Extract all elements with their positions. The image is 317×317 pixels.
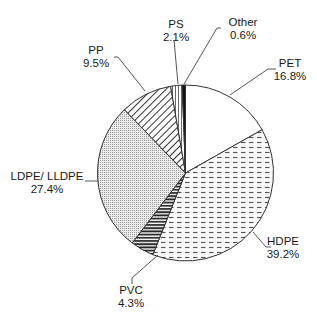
leader-line-other [184,28,221,84]
label-ldpe-pct: 27.4% [31,183,64,195]
label-pet-name: PET [279,57,301,69]
label-pet-pct: 16.8% [274,70,307,82]
label-other-name: Other [229,16,258,28]
label-hdpe-pct: 39.2% [267,248,300,260]
label-other: Other 0.6% [229,16,258,41]
leader-line-ps [174,40,178,84]
label-ldpe-name: LDPE/ LLDPE [11,170,84,182]
pie-slices [98,85,274,261]
label-ps-pct: 2.1% [163,31,189,43]
leader-line-pvc [132,255,158,284]
leader-line-pet [230,69,276,95]
pie-chart: PS 2.1% Other 0.6% PP 9.5% PET 16.8% LDP… [0,0,317,317]
label-pp: PP 9.5% [83,44,109,69]
label-pvc-name: PVC [119,284,143,296]
label-pp-pct: 9.5% [83,57,109,69]
label-hdpe: HDPE 39.2% [267,235,300,260]
label-ps-name: PS [168,18,184,30]
label-pvc: PVC 4.3% [118,284,144,309]
label-pvc-pct: 4.3% [118,297,144,309]
label-pet: PET 16.8% [274,57,307,82]
label-hdpe-name: HDPE [267,235,299,247]
label-pp-name: PP [88,44,104,56]
label-other-pct: 0.6% [230,29,256,41]
leader-line-pp [114,57,145,91]
label-ps: PS 2.1% [163,18,189,43]
label-ldpe: LDPE/ LLDPE 27.4% [11,170,84,195]
